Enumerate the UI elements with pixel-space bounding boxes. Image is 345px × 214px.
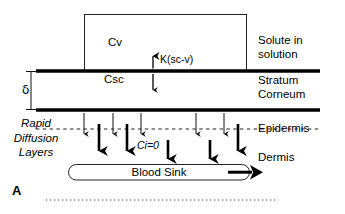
skin-permeation-diagram: Solute in solution Stratum Corneum Epide… <box>0 0 345 214</box>
region-label-stratum-corneum: Stratum Corneum <box>258 74 305 101</box>
partition-coefficient-label: K(sc-v) <box>160 53 193 65</box>
region-label-dermis: Dermis <box>258 151 294 165</box>
concentration-label-vehicle: Cv <box>108 36 122 50</box>
concentration-label-stratum-corneum: Csc <box>104 73 124 87</box>
region-label-solute: Solute in solution <box>258 34 303 61</box>
region-label-epidermis: Epidermis <box>258 122 309 136</box>
region-label-rapid-diffusion-layers: Rapid Diffusion Layers <box>4 116 68 160</box>
thickness-label-delta: δ <box>22 83 29 97</box>
blood-sink-label: Blood Sink <box>68 166 250 180</box>
diagram-canvas <box>0 0 345 214</box>
flux-arrows-thin <box>84 113 224 134</box>
panel-letter: A <box>12 183 21 198</box>
concentration-label-interface: Ci=0 <box>137 139 159 151</box>
